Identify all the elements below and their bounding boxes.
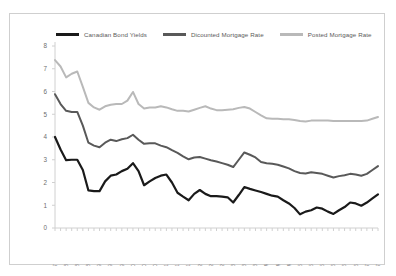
x-tick-label: APR-17 — [365, 264, 370, 266]
y-tick-label: 8 — [43, 42, 47, 49]
x-tick-label: DEC-12 — [220, 264, 225, 266]
x-tick-label: AUG-17 — [376, 264, 381, 266]
x-tick-label: APR-11 — [164, 264, 169, 266]
x-tick-label: AUG-13 — [242, 264, 247, 266]
x-tick-label: APR-09 — [97, 264, 102, 266]
x-tick-label: APR-08 — [64, 264, 69, 266]
x-tick-label: DEC-15 — [320, 264, 325, 266]
x-tick-label: AUG-14 — [276, 264, 281, 266]
x-tick-label: AUG-10 — [142, 264, 147, 266]
x-tick-label: AUG-16 — [342, 264, 347, 266]
x-tick-label: AUG-11 — [175, 264, 180, 266]
x-tick-label: APR-12 — [198, 264, 203, 266]
x-tick-label: APR-14 — [264, 264, 269, 266]
y-tick-label: 4 — [43, 133, 47, 140]
x-axis-group: DEC-07APR-08AUG-08DEC-08APR-09AUG-09DEC-… — [53, 228, 381, 266]
y-axis-group: 012345678 — [43, 42, 55, 231]
x-tick-label: AUG-12 — [209, 264, 214, 266]
chart-card: Canadian Bond Yields Dicounted Mortgage … — [9, 13, 385, 265]
x-tick-label: DEC-08 — [86, 264, 91, 266]
x-tick-label: DEC-16 — [354, 264, 359, 266]
plot-area: 012345678 DEC-07APR-08AUG-08DEC-08APR-09… — [10, 14, 386, 266]
x-tick-label: DEC-07 — [53, 264, 58, 266]
y-tick-label: 6 — [43, 88, 47, 95]
x-tick-label: DEC-11 — [186, 264, 191, 266]
x-tick-label: DEC-09 — [120, 264, 125, 266]
y-tick-label: 2 — [43, 179, 47, 186]
x-tick-label: APR-13 — [231, 264, 236, 266]
y-tick-label: 5 — [43, 111, 47, 118]
x-tick-label: DEC-14 — [287, 264, 292, 266]
x-tick-label: APR-16 — [331, 264, 336, 266]
x-tick-label: AUG-08 — [75, 264, 80, 266]
series-group — [55, 60, 378, 214]
line-chart-svg: 012345678 DEC-07APR-08AUG-08DEC-08APR-09… — [10, 14, 386, 266]
x-tick-label: AUG-15 — [309, 264, 314, 266]
x-tick-label: APR-10 — [131, 264, 136, 266]
x-tick-label: AUG-09 — [108, 264, 113, 266]
y-tick-label: 7 — [43, 65, 47, 72]
x-tick-label: DEC-13 — [253, 264, 258, 266]
series-line-2 — [55, 60, 378, 121]
x-tick-label: DEC-10 — [153, 264, 158, 266]
x-tick-label: APR-15 — [298, 264, 303, 266]
y-tick-label: 3 — [43, 156, 47, 163]
y-tick-label: 0 — [43, 224, 47, 231]
y-tick-label: 1 — [43, 202, 47, 209]
